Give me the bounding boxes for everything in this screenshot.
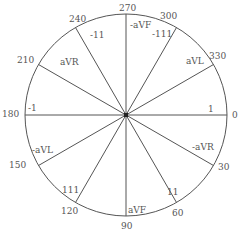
degree-label-300: 300 (160, 11, 177, 21)
lead-label-avf: aVF (128, 205, 146, 215)
lead-label-neg-avr: -aVR (192, 142, 214, 152)
lead-label-11: 11 (167, 187, 178, 197)
degree-label-120: 120 (61, 206, 78, 216)
lead-label-neg-avf: -aVF (130, 20, 151, 30)
degree-labels: 0 30 60 90 120 150 180 210 240 270 300 3… (2, 3, 238, 231)
lead-label-neg-1: -1 (28, 103, 37, 113)
lead-label-1: 1 (208, 104, 214, 114)
degree-label-330: 330 (209, 51, 226, 61)
degree-label-210: 210 (17, 55, 34, 65)
lead-label-111: 111 (62, 185, 79, 195)
degree-label-150: 150 (9, 160, 26, 170)
spoke-120 (76, 115, 127, 203)
lead-label-neg-avl: -aVL (32, 145, 53, 155)
hexaxial-diagram: 0 30 60 90 120 150 180 210 240 270 300 3… (0, 0, 246, 235)
degree-label-60: 60 (172, 208, 184, 218)
degree-label-180: 180 (2, 109, 19, 119)
lead-label-neg-11: -11 (90, 30, 105, 40)
spoke-300 (126, 28, 177, 116)
degree-label-90: 90 (121, 221, 133, 231)
lead-label-neg-111: -111 (152, 29, 172, 39)
spoke-240 (76, 28, 127, 116)
center-point (124, 113, 128, 117)
lead-label-avl: aVL (186, 56, 204, 66)
spoke-30 (126, 115, 214, 166)
degree-label-270: 270 (119, 3, 136, 13)
spoke-210 (39, 65, 127, 116)
degree-label-0: 0 (232, 110, 238, 120)
spoke-150 (39, 115, 127, 166)
spoke-330 (126, 65, 214, 116)
degree-label-240: 240 (69, 14, 86, 24)
degree-label-30: 30 (218, 162, 230, 172)
lead-label-avr: aVR (60, 57, 79, 67)
